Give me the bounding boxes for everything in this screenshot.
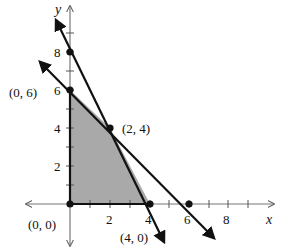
x-tick-2: 2 — [106, 212, 113, 227]
label-0-6: (0, 6) — [9, 85, 37, 100]
graph: 2 4 6 8 2 4 6 8 x y (0, 0) (0, 6) (2, 4)… — [0, 0, 283, 250]
label-0-0: (0, 0) — [28, 217, 56, 232]
x-tick-6: 6 — [184, 212, 191, 227]
label-2-4: (2, 4) — [122, 121, 150, 136]
y-tick-6: 6 — [54, 83, 61, 98]
label-4-0: (4, 0) — [120, 230, 148, 245]
y-axis-label: y — [53, 2, 62, 17]
x-tick-8: 8 — [223, 212, 230, 227]
feasible-region-graph: 2 4 6 8 2 4 6 8 x y (0, 0) (0, 6) (2, 4)… — [0, 0, 283, 250]
y-tick-8: 8 — [54, 45, 61, 60]
x-tick-4: 4 — [145, 212, 152, 227]
y-tick-4: 4 — [54, 121, 61, 136]
x-axis-label: x — [265, 212, 273, 227]
y-tick-2: 2 — [54, 159, 61, 174]
